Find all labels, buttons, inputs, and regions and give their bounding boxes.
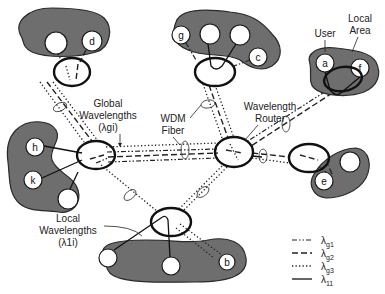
label-local-area-1: Local: [348, 13, 372, 24]
legend-l11: λ11: [321, 274, 333, 287]
node-label-e: e: [321, 176, 327, 187]
label-local-wl-2: Wavelengths: [39, 225, 96, 236]
user-blank-6[interactable]: [99, 249, 117, 267]
user-blank-3[interactable]: [230, 25, 250, 45]
node-label-c: c: [256, 52, 261, 63]
label-wdm-2: Fiber: [162, 125, 185, 136]
label-router-2: Router: [255, 113, 286, 124]
user-blank-2[interactable]: [200, 24, 220, 44]
wavelength-routing-diagram: d g c a f h k e b: [0, 0, 385, 294]
router-d[interactable]: [54, 58, 90, 86]
label-router-1: Wavelength: [244, 101, 296, 112]
label-wdm-1: WDM: [161, 113, 186, 124]
node-label-d: d: [89, 36, 95, 47]
legend-g2: λg2: [321, 248, 334, 262]
user-blank-1[interactable]: [45, 32, 67, 54]
label-user: User: [314, 28, 336, 39]
router-b[interactable]: [151, 208, 191, 236]
user-blank-7[interactable]: [162, 257, 180, 275]
node-label-h: h: [32, 142, 38, 153]
legend-g1: λg1: [321, 235, 334, 249]
router-gc[interactable]: [195, 58, 235, 86]
router-hk[interactable]: [77, 141, 115, 169]
label-local-wl-1: Local: [56, 213, 80, 224]
user-blank-4[interactable]: [58, 189, 78, 209]
node-label-a: a: [322, 58, 328, 69]
label-local-area-2: Area: [349, 25, 371, 36]
label-global-2: Wavelengths: [79, 110, 136, 121]
node-label-b: b: [224, 257, 230, 268]
label-global-1: Global: [94, 98, 123, 109]
label-global-3: (λgi): [98, 122, 117, 133]
wavelength-router-center[interactable]: [215, 137, 253, 167]
node-label-g: g: [178, 30, 184, 41]
legend-g3: λg3: [321, 261, 334, 275]
user-blank-5[interactable]: [340, 152, 360, 172]
label-local-wl-3: (λ1i): [58, 237, 77, 248]
legend: λg1 λg2 λg3 λ11: [292, 235, 334, 287]
